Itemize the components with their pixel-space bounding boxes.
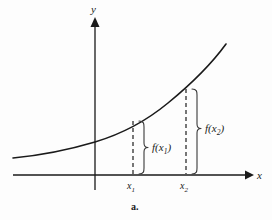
- y-axis-label: y: [90, 3, 96, 15]
- value-label-f-x1: f(x1): [152, 141, 171, 156]
- x-axis-arrow-icon: [245, 171, 254, 180]
- brace-f-x1: [139, 121, 148, 174]
- brace-f-x2: [192, 89, 201, 174]
- tick-label-x2-sub: 2: [184, 186, 188, 194]
- y-axis-arrow-icon: [91, 17, 100, 27]
- tick-label-x1-sub: 1: [131, 186, 135, 194]
- value-label-f-x2: f(x2): [205, 122, 224, 137]
- function-curve: [13, 44, 226, 158]
- tick-label-x2: x2: [179, 180, 188, 194]
- figure-caption: a.: [131, 201, 139, 212]
- value-label-f-x1-suffix: ): [166, 141, 171, 154]
- function-graph-figure: y x x1 x2 f(x1) f(x2) a.: [0, 0, 272, 220]
- x-axis-label: x: [256, 169, 262, 181]
- value-label-f-x2-suffix: ): [219, 122, 224, 135]
- tick-label-x1: x1: [126, 180, 135, 194]
- figure-container: y x x1 x2 f(x1) f(x2) a.: [0, 0, 272, 220]
